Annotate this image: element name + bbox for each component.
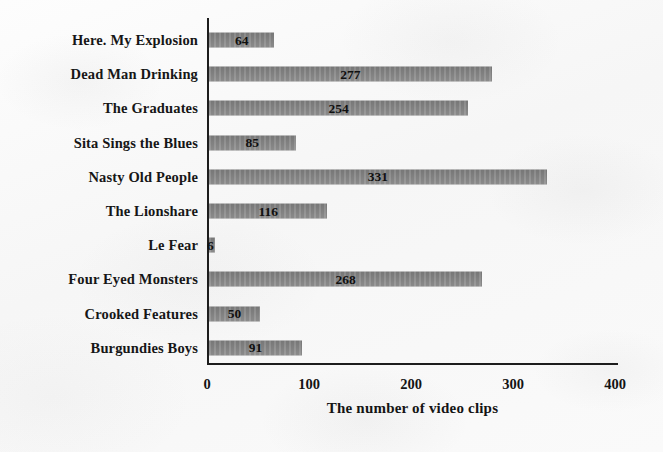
category-label: Dead Man Drinking bbox=[0, 67, 198, 82]
x-tick-label: 300 bbox=[502, 377, 524, 392]
bar-row: 254 bbox=[209, 101, 617, 116]
category-label: The Lionshare bbox=[0, 204, 198, 219]
category-label: Four Eyed Monsters bbox=[0, 272, 198, 287]
x-tick-label: 0 bbox=[203, 377, 210, 392]
category-label: Burgundies Boys bbox=[0, 341, 198, 356]
bar-value-label: 91 bbox=[249, 341, 263, 355]
category-label: Crooked Features bbox=[0, 306, 198, 321]
bar-row: 277 bbox=[209, 67, 617, 82]
y-axis-category-labels: Here. My ExplosionDead Man DrinkingThe G… bbox=[0, 0, 198, 452]
bar-value-label: 116 bbox=[258, 204, 278, 218]
bar-value-label: 6 bbox=[207, 238, 214, 252]
x-axis-title: The number of video clips bbox=[207, 400, 618, 417]
bar-value-label: 254 bbox=[328, 102, 348, 116]
x-tick-label: 200 bbox=[400, 377, 422, 392]
bar-value-label: 268 bbox=[336, 273, 356, 287]
category-label: Here. My Explosion bbox=[0, 33, 198, 48]
x-axis-line bbox=[207, 363, 618, 365]
bar-row: 6 bbox=[209, 238, 617, 253]
category-label: Nasty Old People bbox=[0, 170, 198, 185]
bar-value-label: 50 bbox=[228, 307, 242, 321]
category-label: Sita Sings the Blues bbox=[0, 135, 198, 150]
bar-row: 91 bbox=[209, 340, 617, 355]
x-axis-tick-labels: 0100200300400 bbox=[207, 377, 618, 397]
bar-value-label: 64 bbox=[235, 33, 249, 47]
bar-row: 64 bbox=[209, 33, 617, 48]
bar-chart: Here. My ExplosionDead Man DrinkingThe G… bbox=[0, 0, 663, 452]
bar-value-label: 85 bbox=[246, 136, 260, 150]
bar-value-label: 277 bbox=[340, 67, 360, 81]
bar-row: 85 bbox=[209, 135, 617, 150]
category-label: Le Fear bbox=[0, 238, 198, 253]
bar-value-label: 331 bbox=[368, 170, 388, 184]
category-label: The Graduates bbox=[0, 101, 198, 116]
bar-row: 50 bbox=[209, 306, 617, 321]
plot-area: 642772548533111662685091 bbox=[207, 18, 618, 365]
x-tick-label: 100 bbox=[298, 377, 320, 392]
bar-row: 268 bbox=[209, 272, 617, 287]
bar-row: 331 bbox=[209, 169, 617, 184]
bar-row: 116 bbox=[209, 204, 617, 219]
x-tick-label: 400 bbox=[604, 377, 626, 392]
